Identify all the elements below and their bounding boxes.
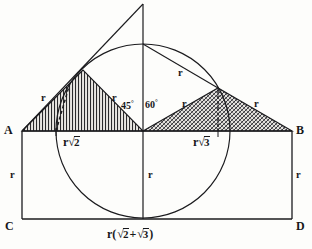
bottom-radicand-2: 3 [143,228,150,241]
point-label-D: D [296,220,305,232]
left-base-radicand: 2 [74,136,81,149]
right-base-radicand: 3 [204,136,211,149]
angle-label-45: 45° [121,100,134,111]
radius-label-right-triangle-left-leg: r [182,99,187,110]
bottom-radicand-1: 2 [123,228,130,241]
point-label-A: A [4,124,13,136]
point-label-C: C [5,220,14,232]
base-label-left-r-root2: r√2 [62,136,80,149]
bottom-length-label: r(√2+√3) [107,228,153,241]
radius-label-left-triangle-hyp: r [41,93,46,104]
bottom-plus-sign: + [129,227,136,241]
geometry-canvas [0,0,312,249]
angle-45-value: 45 [121,100,131,111]
base-label-right-r-root3: r√3 [192,136,210,149]
bottom-close-paren: ) [149,227,153,241]
angle-45-degree-symbol: ° [131,99,134,107]
radius-chord-to-right-apex [143,44,218,88]
angle-label-60: 60° [145,99,158,110]
radius-label-side-AC: r [10,170,15,181]
point-label-B: B [296,124,304,136]
angle-60-degree-symbol: ° [155,98,158,106]
angle-60-value: 60 [145,99,155,110]
radius-label-center-vertical: r [148,170,153,181]
radius-label-circle-chord: r [178,68,183,79]
bottom-open-paren: r( [107,227,116,241]
bottom-radical-group-2: √3 [136,228,149,241]
right-base-radical-group: r√3 [192,136,210,149]
radius-label-side-BD: r [296,170,301,181]
geometry-figure: A B C D 45° 60° r r r r r r r r r√2 r√3 … [0,0,312,249]
bottom-radical-group-1: √2 [116,228,129,241]
radius-label-left-triangle-right-leg: r [112,93,117,104]
left-base-radical-group: r√2 [62,136,80,149]
radius-label-right-triangle-right-leg: r [254,99,259,110]
